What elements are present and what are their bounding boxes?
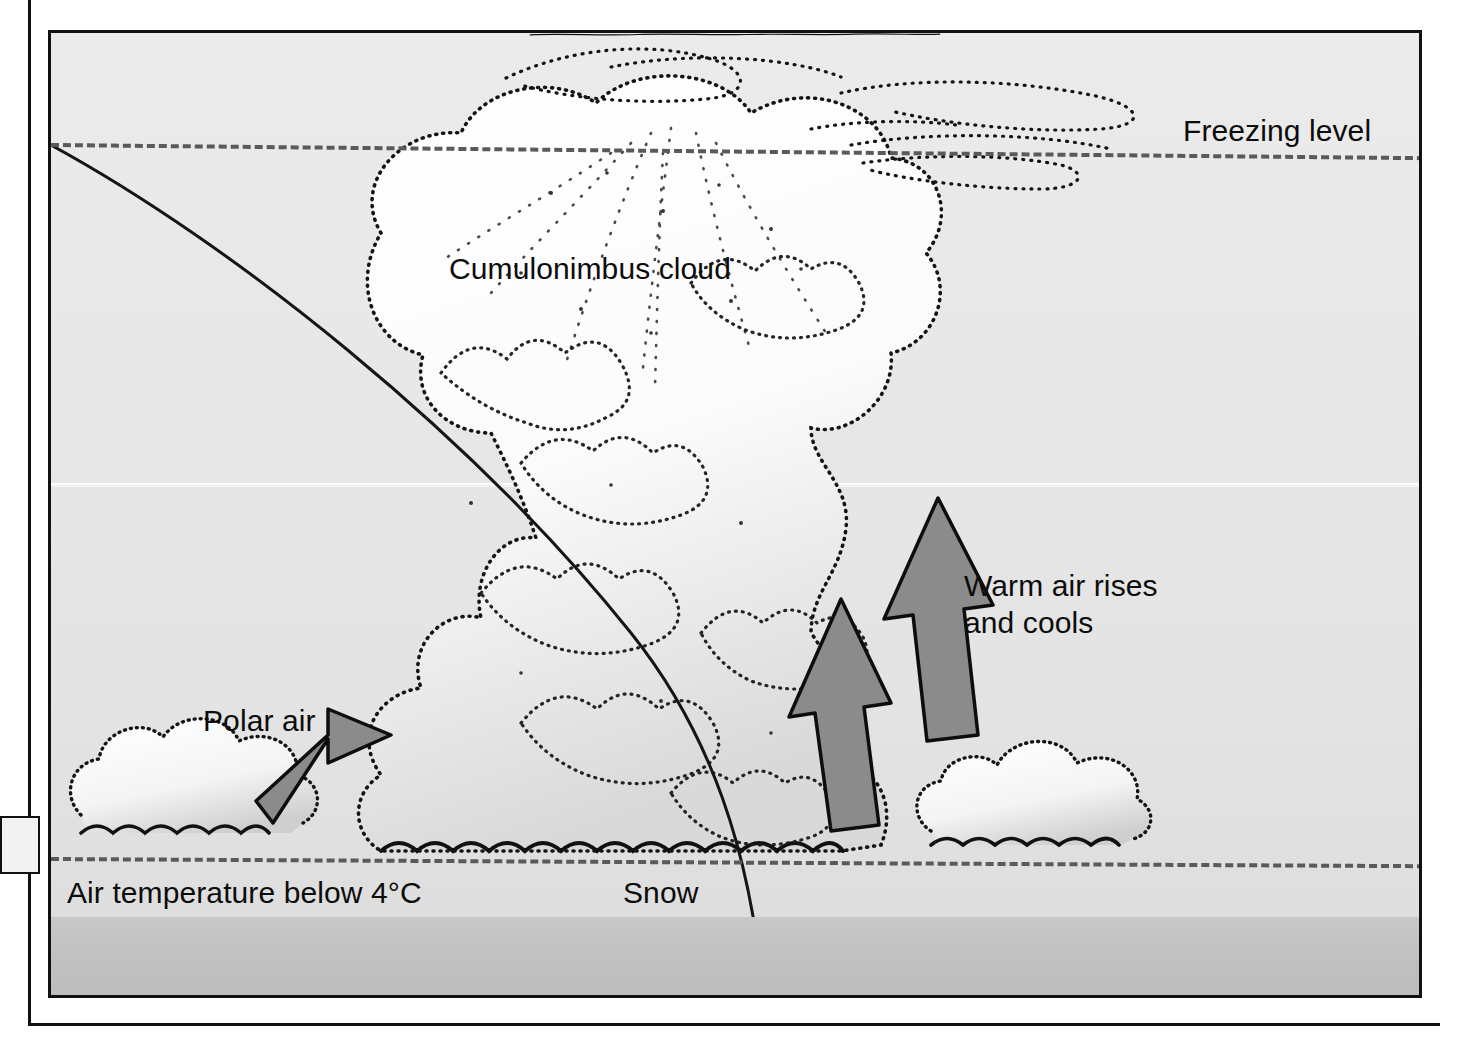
diagram-page: Freezing level Cumulonimbus cloud Warm a… — [0, 0, 1468, 1052]
label-freezing-level: Freezing level — [1183, 113, 1371, 148]
label-air-temperature: Air temperature below 4°C — [67, 875, 422, 910]
ground-surface-line — [51, 33, 1419, 36]
label-snow: Snow — [623, 875, 698, 910]
ground-band — [51, 917, 1419, 995]
label-cumulonimbus-cloud: Cumulonimbus cloud — [449, 251, 731, 286]
page-margin-tab — [0, 816, 40, 874]
label-polar-air: Polar air — [203, 703, 316, 738]
page-border-bottom — [28, 1023, 1440, 1026]
label-warm-air-line1: Warm air rises — [964, 568, 1158, 603]
diagram-frame: Freezing level Cumulonimbus cloud Warm a… — [48, 30, 1422, 998]
diagram-artwork — [51, 33, 1419, 995]
small-cloud-right — [917, 741, 1151, 845]
label-warm-air-line2: and cools — [964, 605, 1093, 640]
